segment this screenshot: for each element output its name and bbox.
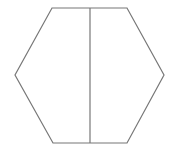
hexagon-diagram (0, 0, 178, 158)
diagram-canvas (0, 0, 178, 158)
